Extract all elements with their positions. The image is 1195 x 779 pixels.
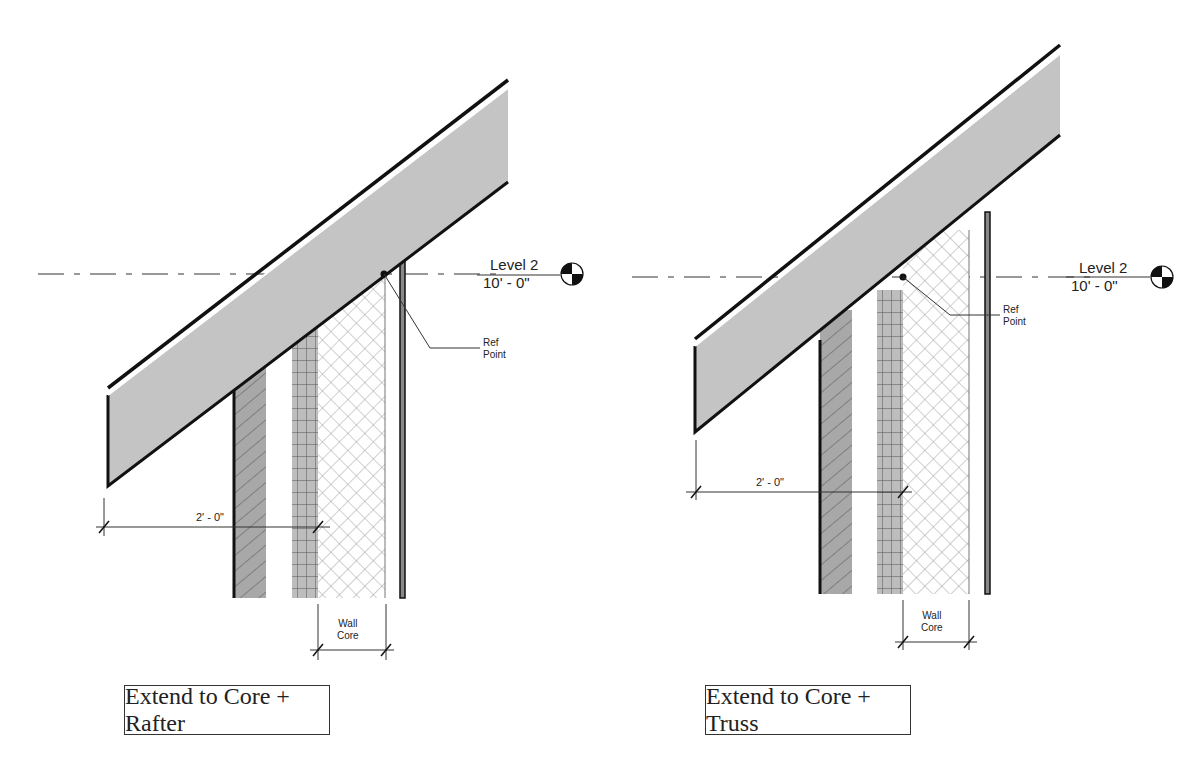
panel-rafter [38, 80, 583, 660]
wall-core-label: Wall Core [337, 618, 359, 642]
level-name: Level 2 [1079, 259, 1127, 276]
level-head-icon [561, 263, 583, 285]
core-label-line1: Wall [337, 618, 359, 630]
core-label-line2: Core [337, 630, 359, 642]
ref-label-line1: Ref [483, 337, 506, 349]
level-head-icon [1151, 266, 1173, 288]
ref-label-line1: Ref [1003, 304, 1026, 316]
level-elevation: 10' - 0" [1071, 277, 1118, 294]
ref-leader [384, 274, 480, 348]
siding-layer [820, 310, 852, 594]
caption-rafter: Extend to Core + Rafter [124, 685, 330, 735]
overhang-dimension: 2' - 0" [756, 476, 784, 488]
ref-point-label: Ref Point [1003, 304, 1026, 328]
wall-core-label: Wall Core [921, 610, 943, 634]
roof-wall-diagram [0, 0, 1195, 779]
ref-point-label: Ref Point [483, 337, 506, 361]
caption-truss: Extend to Core + Truss [705, 685, 911, 735]
level-elevation: 10' - 0" [483, 274, 530, 291]
ref-label-line2: Point [483, 349, 506, 361]
interior-finish [985, 212, 990, 594]
ref-label-line2: Point [1003, 316, 1026, 328]
masonry-layer [877, 290, 903, 594]
panel-truss [632, 45, 1173, 650]
level-name: Level 2 [490, 256, 538, 273]
core-label-line1: Wall [921, 610, 943, 622]
interior-finish [400, 262, 405, 598]
overhang-dimension: 2' - 0" [196, 511, 224, 523]
core-label-line2: Core [921, 622, 943, 634]
